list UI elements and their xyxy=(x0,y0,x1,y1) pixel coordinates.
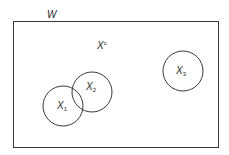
set-x2-base: X xyxy=(86,81,93,92)
set-x3-label: X3 xyxy=(176,66,186,76)
diagram-canvas xyxy=(0,0,229,155)
set-x1-base: X xyxy=(57,100,64,111)
set-x3-base: X xyxy=(176,65,183,76)
set-x1-label: X1 xyxy=(57,101,67,111)
set-x2-label: X2 xyxy=(86,82,96,92)
universe-label: W xyxy=(47,10,56,20)
set-x2-subscript: 2 xyxy=(93,87,96,93)
complement-label: Xc xyxy=(97,41,107,51)
set-x3-subscript: 3 xyxy=(183,71,186,77)
universe-rectangle xyxy=(14,22,219,148)
venn-diagram: W Xc X1 X2 X3 xyxy=(0,0,229,155)
complement-superscript: c xyxy=(104,40,107,46)
complement-base: X xyxy=(97,40,104,51)
set-x1-subscript: 1 xyxy=(64,106,67,112)
